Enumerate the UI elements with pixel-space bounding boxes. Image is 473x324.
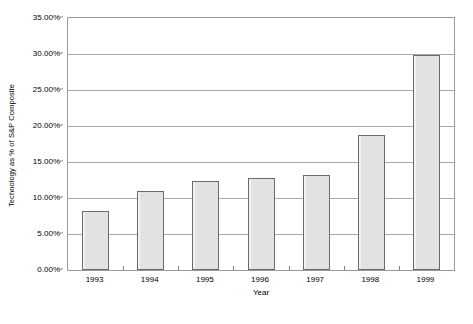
- x-axis-tick-label: 1998: [340, 275, 400, 285]
- x-axis-tick-mark: [344, 266, 345, 270]
- bar-1999: [413, 55, 440, 270]
- y-axis-title-label: Technology as % of S&P Composite: [8, 83, 17, 206]
- x-axis-tick-label: 1995: [175, 275, 235, 285]
- x-axis-tick-label: 1994: [120, 275, 180, 285]
- bar-1997: [303, 175, 330, 270]
- y-axis-tick-label: 20.00%: [16, 121, 60, 130]
- y-axis-tick-mark: [60, 161, 63, 162]
- bar-1994: [137, 191, 164, 270]
- y-axis-tick-mark: [60, 53, 63, 54]
- y-axis-tick-label: 10.00%: [16, 193, 60, 202]
- gridline: [68, 162, 454, 163]
- x-axis-tick-mark: [233, 266, 234, 270]
- gridline: [68, 126, 454, 127]
- y-axis-tick-label: 35.00%: [16, 13, 60, 22]
- y-axis-tick-label: 0.00%: [16, 265, 60, 274]
- bar-1993: [82, 211, 109, 270]
- y-axis-tick-mark: [60, 269, 63, 270]
- bar-1998: [358, 135, 385, 270]
- bar-highlight: [83, 212, 85, 269]
- x-axis-title: Year: [67, 288, 455, 297]
- y-axis-tick-labels: 0.00%5.00%10.00%15.00%20.00%25.00%30.00%…: [18, 11, 63, 271]
- bar-chart-figure: Technology as % of S&P Composite 0.00%5.…: [0, 0, 473, 324]
- plot-area: [67, 17, 455, 271]
- x-axis-tick-mark: [123, 266, 124, 270]
- bar-1995: [192, 181, 219, 270]
- y-axis-tick-label: 30.00%: [16, 49, 60, 58]
- y-axis-tick-mark: [60, 197, 63, 198]
- x-axis-tick-mark: [178, 266, 179, 270]
- y-axis-tick-label: 25.00%: [16, 85, 60, 94]
- bar-highlight: [249, 179, 251, 269]
- y-axis-tick-mark: [60, 89, 63, 90]
- x-axis-tick-mark: [289, 266, 290, 270]
- gridline: [68, 54, 454, 55]
- bar-highlight: [193, 182, 195, 269]
- bar-highlight: [304, 176, 306, 269]
- x-axis-tick-labels: 1993199419951996199719981999: [67, 275, 455, 287]
- y-axis-tick-mark: [60, 17, 63, 18]
- x-axis-tick-label: 1999: [395, 275, 455, 285]
- y-axis-tick-label: 5.00%: [16, 229, 60, 238]
- bar-highlight: [138, 192, 140, 269]
- y-axis-tick-mark: [60, 125, 63, 126]
- x-axis-tick-mark: [399, 266, 400, 270]
- bar-highlight: [414, 56, 416, 269]
- bar-highlight: [359, 136, 361, 269]
- y-axis-tick-mark: [60, 233, 63, 234]
- x-axis-tick-label: 1996: [230, 275, 290, 285]
- gridline: [68, 90, 454, 91]
- bar-1996: [248, 178, 275, 270]
- x-axis-tick-label: 1997: [285, 275, 345, 285]
- y-axis-tick-label: 15.00%: [16, 157, 60, 166]
- x-axis-title-label: Year: [253, 288, 269, 297]
- x-axis-tick-label: 1993: [65, 275, 125, 285]
